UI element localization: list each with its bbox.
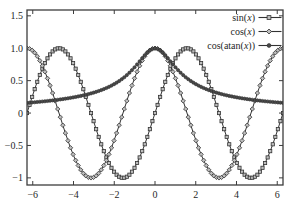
y-tick-label: 0 bbox=[18, 108, 23, 119]
x-tick-label: −6 bbox=[27, 189, 38, 200]
chart-canvas: −6−4−202461.51.00.50−0.5−1sin(x)cos(x)co… bbox=[0, 0, 290, 217]
y-tick-label: 1.0 bbox=[11, 43, 24, 54]
x-tick-label: 0 bbox=[153, 189, 158, 200]
legend-label-0: sin(x) bbox=[232, 12, 255, 24]
x-tick-label: 4 bbox=[234, 189, 239, 200]
legend-entry-0: sin(x) bbox=[232, 12, 281, 24]
y-tick-label: 0.5 bbox=[11, 75, 24, 86]
series-0-group bbox=[25, 47, 284, 180]
series-2-markers bbox=[25, 47, 284, 105]
y-tick-label: 1.5 bbox=[11, 10, 24, 21]
legend-label-2: cos(atan(x)) bbox=[207, 40, 255, 52]
legend: sin(x)cos(x)cos(atan(x)) bbox=[207, 12, 281, 52]
legend-entry-2: cos(atan(x)) bbox=[207, 40, 281, 52]
legend-label-1: cos(x) bbox=[231, 26, 255, 38]
series-0-markers bbox=[25, 47, 284, 180]
series-2-curve bbox=[27, 48, 283, 103]
x-tick-label: −4 bbox=[68, 189, 79, 200]
x-tick-label: 2 bbox=[193, 189, 198, 200]
y-tick-label: −0.5 bbox=[5, 140, 23, 151]
x-tick-label: −2 bbox=[109, 189, 120, 200]
x-tick-label: 6 bbox=[275, 189, 280, 200]
legend-entry-1: cos(x) bbox=[231, 26, 282, 38]
y-tick-label: −1 bbox=[12, 172, 23, 183]
series-2-group bbox=[25, 47, 284, 105]
figure: −6−4−202461.51.00.50−0.5−1sin(x)cos(x)co… bbox=[0, 0, 290, 217]
